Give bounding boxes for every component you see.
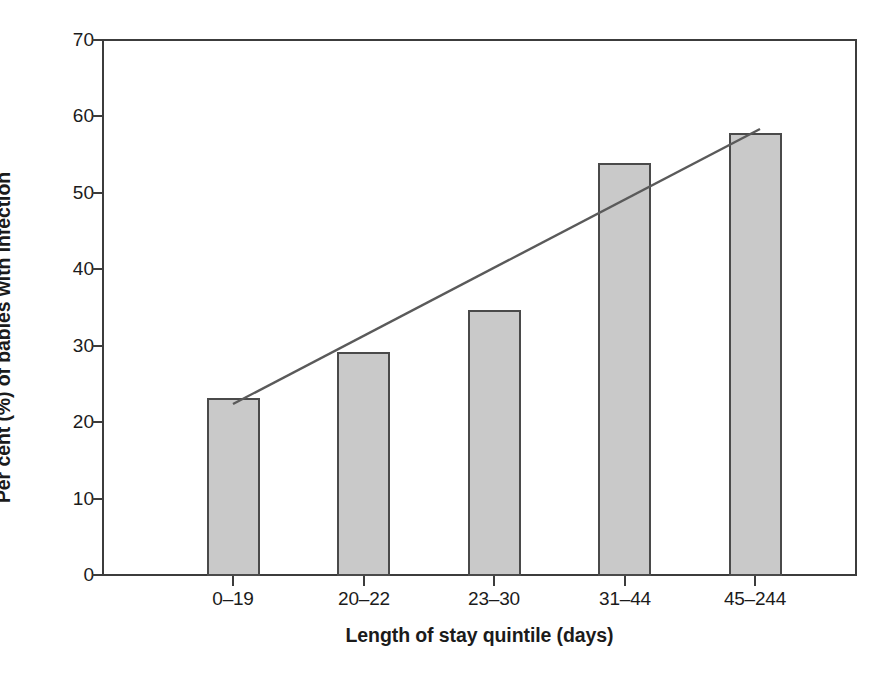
figure-container: Per cent (%) of babies with infection Le… [0, 0, 888, 675]
bar-0-19 [208, 399, 259, 575]
y-axis-ticks [92, 40, 103, 575]
bar-23-30 [469, 311, 520, 575]
bar-20-22 [338, 353, 389, 575]
bar-45-244 [730, 134, 781, 575]
bar-31-44 [599, 164, 650, 575]
bar-series [208, 134, 781, 575]
chart-plot-svg [0, 0, 888, 675]
x-axis-ticks [233, 575, 755, 586]
